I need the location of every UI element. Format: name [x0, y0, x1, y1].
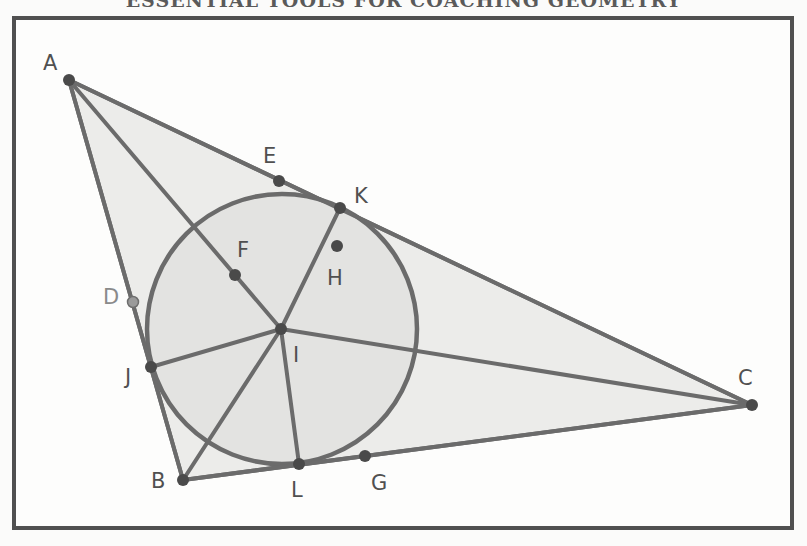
label-d: D — [103, 285, 119, 309]
label-b: B — [151, 469, 165, 493]
point-c — [746, 399, 758, 411]
label-c: C — [738, 366, 753, 390]
point-g — [359, 450, 371, 462]
point-a — [63, 74, 75, 86]
point-i — [275, 323, 287, 335]
point-j — [145, 361, 157, 373]
point-d — [128, 297, 139, 308]
label-h: H — [327, 266, 343, 290]
label-i: I — [293, 343, 299, 367]
geometry-diagram: ABCDEFGHIJKL — [0, 0, 807, 546]
point-k — [334, 202, 346, 214]
label-k: K — [354, 184, 369, 208]
point-f — [229, 269, 241, 281]
label-l: L — [291, 478, 303, 502]
point-e — [273, 175, 285, 187]
point-b — [177, 474, 189, 486]
label-a: A — [43, 51, 58, 75]
label-f: F — [237, 238, 249, 262]
label-j: J — [123, 365, 131, 389]
point-l — [293, 458, 305, 470]
point-h — [331, 240, 343, 252]
label-e: E — [263, 144, 276, 168]
label-g: G — [371, 471, 387, 495]
